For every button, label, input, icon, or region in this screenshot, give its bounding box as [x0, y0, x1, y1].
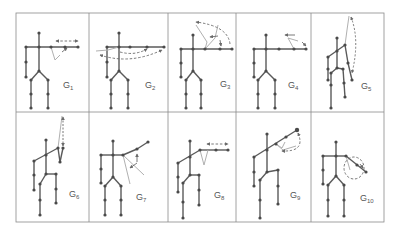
panel-g7: G7: [99, 139, 149, 216]
skeleton: [101, 141, 148, 215]
skeleton: [323, 142, 366, 216]
ghost-limb: [276, 142, 296, 150]
motion-arrows: [100, 49, 162, 59]
panel-label-g7: G7: [136, 192, 147, 203]
motion-arrows: [130, 154, 137, 168]
panel-g9: G9: [252, 128, 301, 220]
panel-label-g4: G4: [288, 80, 299, 91]
ghost-limb: [123, 155, 144, 184]
panel-g8: G8: [176, 139, 229, 219]
skeleton: [178, 141, 228, 218]
panel-label-g9: G9: [290, 190, 301, 201]
panel-label-g3: G3: [220, 79, 231, 90]
ghost-limb: [196, 25, 218, 49]
ghost-limb: [288, 38, 298, 49]
panel-g6: G6: [32, 116, 80, 217]
joints: [32, 138, 64, 216]
joints: [99, 139, 149, 216]
panel-label-g5: G5: [361, 81, 372, 92]
joints: [105, 31, 165, 109]
gesture-figure: G1 G2: [0, 0, 401, 236]
panel-g1: G1: [24, 31, 79, 109]
panel-g3: G3: [179, 22, 233, 110]
joints: [176, 139, 229, 219]
ghost-limb: [200, 150, 208, 165]
joints: [24, 31, 79, 109]
skeleton: [181, 35, 232, 108]
panel-label-g10: G10: [360, 193, 374, 204]
panel-label-g8: G8: [214, 190, 225, 201]
skeleton: [34, 140, 63, 215]
joints: [252, 33, 307, 109]
panel-g5: G5: [326, 16, 372, 110]
skeleton: [107, 33, 164, 108]
ghost-limb: [58, 116, 62, 148]
panel-label-g6: G6: [69, 189, 80, 200]
motion-arrows: [351, 17, 356, 73]
panel-g10: G10: [321, 140, 374, 217]
skeleton: [26, 33, 78, 108]
panel-label-g2: G2: [145, 80, 156, 91]
motion-arrows: [196, 22, 230, 46]
ghost-limb: [51, 47, 60, 60]
panel-g4: G4: [252, 33, 307, 109]
panel-g2: G2: [96, 31, 166, 109]
skeleton: [254, 35, 306, 108]
panel-label-g1: G1: [63, 80, 74, 91]
ghost-limb: [345, 16, 349, 45]
